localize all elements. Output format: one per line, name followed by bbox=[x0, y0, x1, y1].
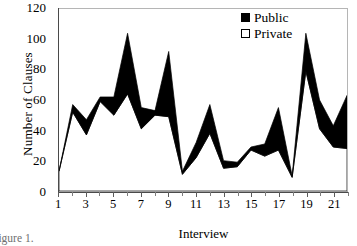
x-tick-label: 21 bbox=[328, 198, 341, 211]
plot-area bbox=[58, 8, 348, 192]
x-tick bbox=[210, 192, 211, 196]
y-tick-label: 40 bbox=[33, 124, 46, 137]
x-tick-label: 3 bbox=[82, 198, 88, 211]
x-tick-label: 5 bbox=[110, 198, 116, 211]
y-axis-line bbox=[58, 8, 59, 193]
legend-item-private: Private bbox=[241, 26, 292, 42]
x-tick bbox=[348, 192, 349, 196]
y-tick-label: 100 bbox=[27, 32, 47, 45]
x-tick bbox=[182, 192, 183, 196]
x-tick bbox=[127, 192, 128, 196]
x-tick bbox=[72, 192, 73, 196]
x-tick-label: 1 bbox=[55, 198, 61, 211]
x-tick bbox=[320, 192, 321, 196]
x-tick bbox=[99, 192, 100, 196]
area-chart-svg bbox=[59, 9, 347, 191]
legend-item-public: Public bbox=[241, 10, 292, 26]
legend-swatch-public-icon bbox=[241, 13, 250, 22]
legend-swatch-private-icon bbox=[241, 29, 250, 38]
y-tick-label: 0 bbox=[40, 185, 47, 198]
x-tick-label: 11 bbox=[190, 198, 202, 211]
legend-label-private: Private bbox=[254, 26, 292, 42]
x-tick-label: 7 bbox=[138, 198, 144, 211]
y-tick-label: 60 bbox=[33, 93, 46, 106]
y-tick-label: 20 bbox=[33, 154, 46, 167]
y-tick-label: 120 bbox=[27, 1, 47, 14]
y-axis-tick-labels: 020406080100120 bbox=[0, 0, 54, 246]
figure-root: Number of Clauses 020406080100120 135791… bbox=[0, 0, 357, 246]
x-tick bbox=[265, 192, 266, 196]
x-tick-label: 15 bbox=[245, 198, 258, 211]
figure-caption: Figure 1. bbox=[0, 232, 34, 244]
x-tick-label: 9 bbox=[165, 198, 171, 211]
x-tick-label: 17 bbox=[273, 198, 286, 211]
x-axis-line bbox=[58, 192, 349, 193]
chart-legend: Public Private bbox=[241, 10, 292, 41]
x-tick-label: 13 bbox=[217, 198, 230, 211]
x-tick-label: 19 bbox=[300, 198, 313, 211]
legend-label-public: Public bbox=[254, 10, 289, 26]
x-tick bbox=[293, 192, 294, 196]
x-axis-title: Interview bbox=[58, 226, 349, 242]
y-tick-label: 80 bbox=[33, 62, 46, 75]
x-tick bbox=[155, 192, 156, 196]
x-tick bbox=[238, 192, 239, 196]
